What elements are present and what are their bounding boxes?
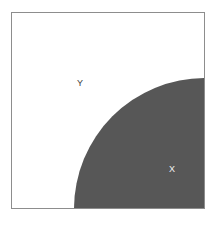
set-region-figure: Y X [0,0,217,226]
region-x-quarter-disc [74,78,205,209]
region-label-y: Y [77,79,83,88]
region-label-x: X [169,165,175,174]
universe-square: Y X [11,12,205,209]
